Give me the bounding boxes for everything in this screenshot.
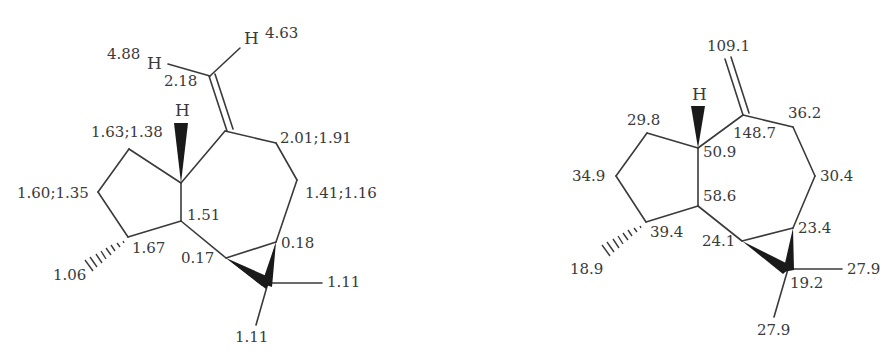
shift-label: 34.9 (572, 169, 605, 184)
shift-label: 29.8 (627, 113, 660, 128)
shift-label: 18.9 (570, 262, 603, 277)
shift-label: 109.1 (707, 39, 750, 54)
shift-label: 19.2 (790, 276, 823, 291)
hydrogen-atom-bridgehead: H (692, 86, 707, 103)
shift-label: 148.7 (733, 126, 776, 141)
shift-label: 23.4 (798, 221, 831, 236)
shift-label: 27.9 (757, 323, 790, 338)
right-structure-bonds (0, 0, 896, 364)
shift-label: 39.4 (650, 225, 683, 240)
shift-label: 36.2 (788, 106, 821, 121)
shift-label: 27.9 (847, 262, 880, 277)
shift-label: 24.1 (702, 234, 735, 249)
shift-label: 30.4 (820, 169, 853, 184)
shift-label: 50.9 (703, 145, 736, 160)
shift-label: 58.6 (703, 189, 736, 204)
nmr-structures-figure: H H H 4.63 4.88 2.18 1.63;1.38 2.01;1.91… (0, 0, 896, 364)
